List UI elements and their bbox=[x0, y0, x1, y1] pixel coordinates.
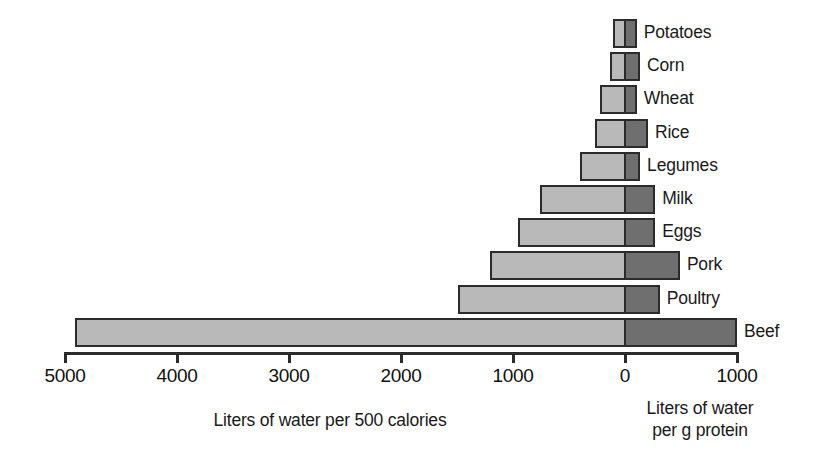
bar-segment-calories bbox=[75, 318, 625, 347]
x-tick-label: 0 bbox=[620, 365, 630, 387]
caption-right-line1: Liters of water bbox=[610, 398, 790, 420]
x-axis-caption-left: Liters of water per 500 calories bbox=[130, 410, 530, 432]
bar-row: Wheat bbox=[0, 84, 830, 117]
bar-category-label: Milk bbox=[662, 188, 692, 209]
bar-category-label: Corn bbox=[647, 55, 684, 76]
bar-category-label: Eggs bbox=[662, 221, 701, 242]
bar-segment-calories bbox=[458, 285, 625, 314]
bar-row: Eggs bbox=[0, 217, 830, 250]
x-tick-label: 1000 bbox=[492, 365, 533, 387]
bar-category-label: Beef bbox=[744, 321, 779, 342]
bar-segment-protein bbox=[625, 19, 637, 48]
bar-row: Pork bbox=[0, 250, 830, 283]
bar-category-label: Wheat bbox=[644, 88, 694, 109]
bar-segment-calories bbox=[595, 119, 625, 148]
x-tick-label: 1000 bbox=[716, 365, 757, 387]
bar-segment-protein bbox=[625, 119, 648, 148]
bar-segment-calories bbox=[518, 218, 625, 247]
bar-category-label: Potatoes bbox=[644, 22, 711, 43]
bar-row: Milk bbox=[0, 184, 830, 217]
caption-left-text: Liters of water per 500 calories bbox=[130, 410, 530, 432]
bar-row: Rice bbox=[0, 118, 830, 151]
bar-category-label: Pork bbox=[687, 254, 722, 275]
x-tick bbox=[512, 352, 515, 363]
bar-category-label: Poultry bbox=[667, 288, 720, 309]
plot-area: PotatoesCornWheatRiceLegumesMilkEggsPork… bbox=[0, 0, 830, 352]
bar-segment-protein bbox=[625, 52, 640, 81]
bar-segment-calories bbox=[490, 251, 625, 280]
bar-category-label: Legumes bbox=[647, 155, 718, 176]
x-tick bbox=[736, 352, 739, 363]
bar-segment-protein bbox=[625, 251, 680, 280]
x-tick-label: 2000 bbox=[380, 365, 421, 387]
x-tick bbox=[64, 352, 67, 363]
bar-segment-calories bbox=[540, 185, 625, 214]
bar-segment-protein bbox=[625, 318, 737, 347]
bar-segment-calories bbox=[600, 85, 625, 114]
bar-row: Beef bbox=[0, 317, 830, 350]
x-axis-caption-right: Liters of water per g protein bbox=[610, 398, 790, 442]
x-tick bbox=[288, 352, 291, 363]
x-tick bbox=[624, 352, 627, 363]
x-tick-label: 3000 bbox=[268, 365, 309, 387]
x-tick-label: 5000 bbox=[44, 365, 85, 387]
bar-segment-protein bbox=[625, 85, 637, 114]
x-tick bbox=[400, 352, 403, 363]
bar-segment-protein bbox=[625, 185, 655, 214]
bar-segment-calories bbox=[580, 152, 625, 181]
bar-row: Legumes bbox=[0, 151, 830, 184]
bar-segment-protein bbox=[625, 218, 655, 247]
x-tick-label: 4000 bbox=[156, 365, 197, 387]
caption-right-line2: per g protein bbox=[610, 420, 790, 442]
bar-segment-protein bbox=[625, 152, 640, 181]
bar-segment-calories bbox=[613, 19, 625, 48]
x-tick bbox=[176, 352, 179, 363]
bar-category-label: Rice bbox=[655, 122, 689, 143]
bar-row: Corn bbox=[0, 51, 830, 84]
bar-row: Potatoes bbox=[0, 18, 830, 51]
water-footprint-bar-chart: PotatoesCornWheatRiceLegumesMilkEggsPork… bbox=[0, 0, 830, 466]
bar-segment-calories bbox=[610, 52, 625, 81]
bar-segment-protein bbox=[625, 285, 660, 314]
bar-row: Poultry bbox=[0, 284, 830, 317]
